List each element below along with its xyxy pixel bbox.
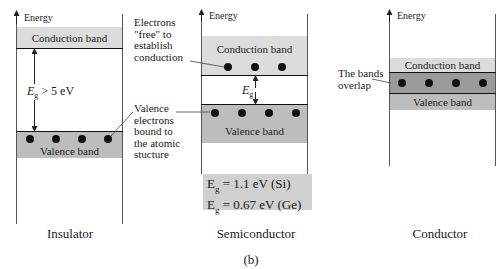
energy-axis-arrow-icon xyxy=(17,12,390,24)
free-electrons-leader-line xyxy=(190,61,224,67)
valence-leader-line xyxy=(111,112,133,136)
overlap-leader-line xyxy=(372,79,391,83)
arrows-overlay xyxy=(0,0,502,269)
